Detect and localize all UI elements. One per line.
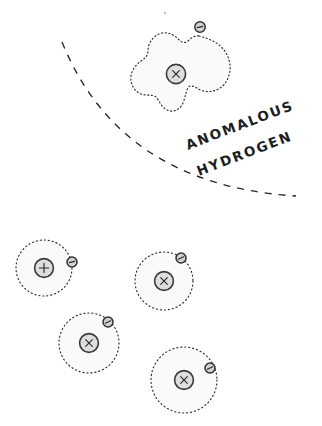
nucleus-normal-3: [80, 334, 99, 353]
electron-normal-1: [67, 257, 77, 267]
electron-normal-4: [205, 363, 215, 373]
electron-normal-2: [176, 253, 186, 263]
anomalous-hydrogen-figure: ANOMALOUS HYDROGEN: [0, 0, 322, 426]
pencil-speck: [164, 12, 166, 14]
atom-anomalous-hydrogen: [131, 22, 230, 111]
electron-normal-3: [103, 317, 113, 327]
nucleus-normal-1: [35, 259, 54, 278]
label-group: ANOMALOUS HYDROGEN: [183, 97, 296, 179]
atom-normal-hydrogen-3: [59, 313, 119, 373]
electron-anomalous: [195, 22, 205, 32]
nucleus-normal-4: [175, 371, 194, 390]
figure-canvas: ANOMALOUS HYDROGEN: [0, 0, 322, 426]
atom-normal-hydrogen-2: [135, 252, 193, 310]
nucleus-anomalous: [166, 64, 185, 83]
nucleus-normal-2: [155, 272, 174, 291]
atom-normal-hydrogen-1: [16, 240, 77, 296]
atom-normal-hydrogen-4: [151, 347, 217, 413]
